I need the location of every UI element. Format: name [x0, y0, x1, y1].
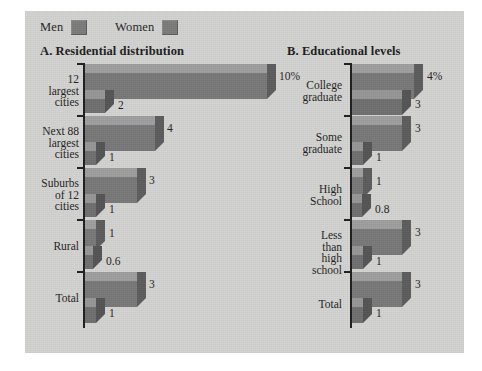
- chart-a-value-label: 2: [118, 99, 124, 111]
- bar-front-face: [352, 151, 363, 165]
- bar-front-face: [85, 255, 93, 269]
- bar-side-face: [402, 220, 411, 255]
- chart-a-tick: [77, 115, 84, 117]
- chart-a-category-label: Rural: [15, 241, 79, 253]
- chart-a-value-label: 1: [109, 203, 115, 215]
- chart-b-category-label: Total: [278, 299, 342, 311]
- chart-b-title: B. Educational levels: [287, 44, 401, 59]
- legend-label-men: Men: [40, 20, 64, 35]
- chart-a-category-label: Total: [15, 293, 79, 305]
- chart-b-value-label: 1: [376, 255, 382, 267]
- chart-a-value-label: 1: [109, 151, 115, 163]
- bar-side-face: [155, 116, 164, 151]
- bar-front-face: [85, 203, 96, 217]
- chart-a-bar-women: [85, 99, 105, 113]
- chart-b-value-label: 1: [376, 175, 382, 187]
- bar-side-face: [96, 298, 105, 323]
- bar-front-face: [352, 99, 402, 115]
- legend-label-women: Women: [115, 20, 155, 35]
- chart-a-tick: [77, 219, 84, 221]
- bar-side-face: [402, 272, 411, 307]
- chart-b-value-label: 3: [415, 278, 421, 290]
- chart-b-value-label: 4%: [427, 70, 442, 82]
- chart-b-tick: [344, 219, 351, 221]
- chart-b-value-label: 3: [415, 226, 421, 238]
- chart-a-title: A. Residential distribution: [40, 44, 184, 59]
- legend-item-men: Men: [40, 20, 87, 35]
- chart-b-category-label: Some graduate: [278, 132, 342, 155]
- chart-a-value-label: 0.6: [106, 255, 120, 267]
- chart-a-bar-women: [85, 151, 96, 165]
- chart-b-tick: [344, 115, 351, 117]
- bar-side-face: [363, 298, 372, 323]
- bar-side-face: [93, 246, 102, 269]
- bar-side-face: [363, 142, 372, 165]
- chart-a-value-label: 4: [167, 122, 173, 134]
- bar-side-face: [137, 272, 146, 307]
- bar-side-face: [96, 194, 105, 217]
- bar-front-face: [352, 203, 362, 217]
- bar-top-face: [85, 116, 164, 125]
- chart-a-value-label: 1: [109, 307, 115, 319]
- chart-b-value-label: 1: [376, 307, 382, 319]
- chart-a-category-label: Next 88 largest cities: [15, 126, 79, 161]
- bar-front-face: [85, 99, 105, 113]
- bar-front-face: [352, 307, 363, 323]
- chart-a-tick: [77, 63, 84, 65]
- chart-b-bar-women: [352, 151, 363, 165]
- chart-b-value-label: 3: [415, 122, 421, 134]
- chart-b-category-label: Less than high school: [278, 230, 342, 276]
- chart-b-tick: [344, 63, 351, 65]
- bar-side-face: [402, 90, 411, 115]
- legend-swatch-women: [162, 20, 178, 35]
- chart-panel: Men Women A. Residential distribution B.…: [25, 11, 464, 353]
- bar-side-face: [363, 246, 372, 269]
- chart-b-bar-women: [352, 307, 363, 323]
- chart-a-tick: [77, 167, 84, 169]
- chart-b-category-label: High School: [278, 184, 342, 207]
- chart-b-value-label: 0.8: [375, 203, 389, 215]
- legend-item-women: Women: [115, 20, 178, 35]
- chart-b-tick: [344, 167, 351, 169]
- chart-a-category-label: Suburbs of 12 cities: [15, 178, 79, 213]
- bar-side-face: [362, 194, 371, 217]
- bar-front-face: [85, 151, 96, 165]
- bar-front-face: [352, 255, 363, 269]
- bar-side-face: [105, 90, 114, 113]
- chart-b-bar-women: [352, 255, 363, 269]
- chart-b-tick: [344, 271, 351, 273]
- chart-a-bar-women: [85, 307, 96, 323]
- chart-b-value-label: 1: [376, 151, 382, 163]
- chart-a-bar-women: [85, 255, 93, 269]
- bar-top-face: [352, 64, 423, 73]
- figure-canvas: Men Women A. Residential distribution B.…: [0, 0, 482, 371]
- bar-side-face: [402, 116, 411, 151]
- chart-b-bar-women: [352, 99, 402, 115]
- bar-side-face: [414, 64, 423, 99]
- bar-side-face: [267, 64, 276, 99]
- bar-side-face: [137, 168, 146, 203]
- chart-b-value-label: 3: [415, 98, 421, 110]
- chart-a-value-label: 1: [109, 227, 115, 239]
- chart-a-tick: [77, 271, 84, 273]
- chart-a-value-label: 3: [149, 278, 155, 290]
- chart-b-bar-women: [352, 203, 362, 217]
- bar-front-face: [85, 307, 96, 323]
- chart-a-category-label: 12 largest cities: [15, 74, 79, 109]
- bar-top-face: [85, 64, 276, 73]
- legend-swatch-men: [71, 20, 87, 35]
- bar-side-face: [96, 142, 105, 165]
- chart-a-bar-women: [85, 203, 96, 217]
- chart-a-value-label: 3: [149, 174, 155, 186]
- chart-b-category-label: College graduate: [278, 80, 342, 103]
